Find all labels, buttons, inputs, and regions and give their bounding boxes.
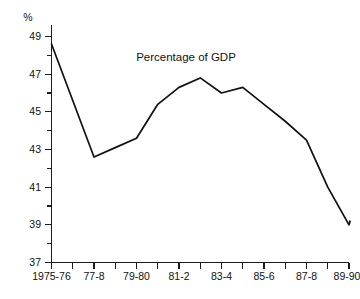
data-line-projection — [349, 219, 351, 225]
chart-title: Percentage of GDP — [136, 51, 236, 63]
y-tick-label-45: 45 — [29, 105, 41, 117]
data-line-solid — [52, 44, 350, 225]
y-tick-label-49: 49 — [29, 30, 41, 42]
x-tick-label-83-4: 83-4 — [211, 270, 232, 282]
x-tick-label-87-8: 87-8 — [296, 270, 317, 282]
x-tick-label-1975-76: 1975-76 — [32, 270, 71, 282]
y-axis-ticks — [45, 37, 52, 263]
x-tick-label-89-90: 89-90 — [334, 270, 360, 282]
x-tick-label-79-80: 79-80 — [123, 270, 150, 282]
x-tick-label-77-8: 77-8 — [83, 270, 104, 282]
x-tick-label-85-6: 85-6 — [253, 270, 274, 282]
chart-container: % Percentage of GDP 37 39 41 — [0, 0, 360, 299]
y-tick-label-47: 47 — [29, 68, 41, 80]
line-chart: % Percentage of GDP 37 39 41 — [0, 0, 360, 299]
y-axis-tick-labels: 37 39 41 43 45 47 49 — [29, 30, 41, 268]
y-tick-label-41: 41 — [29, 181, 41, 193]
x-axis-ticks — [52, 263, 350, 270]
x-axis-tick-labels: 1975-76 77-8 79-80 81-2 83-4 85-6 87-8 8… — [32, 270, 360, 282]
y-tick-label-37: 37 — [29, 256, 41, 268]
x-tick-label-81-2: 81-2 — [168, 270, 189, 282]
y-axis-unit-label: % — [23, 11, 32, 23]
y-tick-label-43: 43 — [29, 143, 41, 155]
y-tick-label-39: 39 — [29, 218, 41, 230]
